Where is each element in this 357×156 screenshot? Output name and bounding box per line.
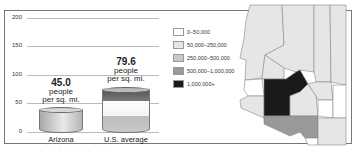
county-navajo: [314, 5, 331, 82]
county-la-paz: [244, 79, 264, 96]
county-santa-cruz: [305, 138, 318, 145]
county-pima: [264, 116, 318, 138]
arizona-county-map: [0, 0, 357, 156]
county-greenlee: [333, 85, 346, 118]
county-graham: [318, 100, 333, 118]
county-yuma: [240, 96, 264, 118]
county-cochise: [318, 118, 346, 145]
county-apache: [330, 5, 346, 85]
caption: · · · · · · · ·: [40, 147, 113, 153]
